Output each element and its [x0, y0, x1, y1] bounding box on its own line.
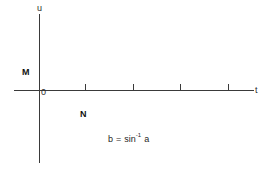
- point-label-m: M: [22, 67, 30, 77]
- t-axis-tick-1: [85, 84, 86, 91]
- math-diagram-canvas: u t 0 M N b=sin-1a: [0, 0, 274, 173]
- origin-label: 0: [41, 87, 46, 97]
- t-axis-tick-2: [133, 84, 134, 91]
- formula-equals: =: [116, 134, 121, 144]
- formula-argument: a: [144, 134, 149, 144]
- u-axis-line: [39, 14, 40, 163]
- u-axis-label: u: [37, 3, 42, 13]
- formula-function: sin: [124, 134, 136, 144]
- t-axis-tick-4: [228, 84, 229, 91]
- formula-exponent: -1: [136, 132, 141, 138]
- point-label-n: N: [80, 109, 87, 119]
- formula-lhs: b: [108, 134, 113, 144]
- t-axis-tick-3: [180, 84, 181, 91]
- formula-caption: b=sin-1a: [108, 131, 149, 145]
- t-axis-line: [14, 90, 254, 91]
- t-axis-label: t: [255, 85, 258, 95]
